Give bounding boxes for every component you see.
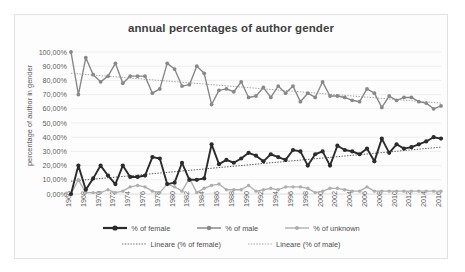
- x-tick-label: 1974: [123, 191, 132, 207]
- data-point: [195, 64, 199, 68]
- data-point: [313, 96, 317, 100]
- y-tick-label: 60,00%: [43, 104, 68, 113]
- data-point: [299, 185, 302, 188]
- legend-item[interactable]: % of unknown: [284, 224, 359, 233]
- data-point: [417, 189, 420, 192]
- legend-item[interactable]: % of female: [102, 224, 170, 233]
- legend-item[interactable]: Lineare (% of female): [121, 240, 221, 249]
- data-point: [254, 189, 257, 192]
- data-point: [210, 184, 213, 187]
- data-point: [121, 81, 125, 85]
- data-point: [136, 74, 140, 78]
- data-point: [291, 148, 295, 152]
- data-point: [439, 137, 443, 141]
- data-point: [380, 137, 384, 141]
- x-tick-label: 1992: [256, 191, 265, 207]
- data-point: [328, 164, 332, 168]
- data-point: [180, 84, 184, 88]
- data-point: [77, 93, 81, 97]
- data-point: [247, 184, 250, 187]
- data-point: [395, 189, 398, 192]
- x-tick-label: 1990: [242, 191, 251, 207]
- data-point: [313, 152, 317, 156]
- data-point: [203, 187, 206, 190]
- legend-swatch-icon: [102, 224, 128, 232]
- data-point: [365, 146, 369, 150]
- data-point: [373, 91, 377, 95]
- data-point: [350, 98, 354, 102]
- data-point: [217, 162, 221, 166]
- data-point: [372, 159, 376, 163]
- data-point: [136, 175, 140, 179]
- data-point: [151, 189, 154, 192]
- data-point: [328, 94, 332, 98]
- data-point: [225, 188, 228, 191]
- data-point: [188, 83, 192, 87]
- data-point: [239, 156, 243, 160]
- data-point: [76, 164, 80, 168]
- data-point: [247, 151, 251, 155]
- data-point: [439, 104, 443, 108]
- data-point: [402, 146, 406, 150]
- trendline: [71, 73, 441, 103]
- y-tick-label: 100,00%: [39, 48, 68, 57]
- data-point: [173, 181, 177, 185]
- data-point: [247, 96, 251, 100]
- x-tick-label: 2014: [419, 191, 428, 207]
- data-point: [261, 159, 265, 163]
- legend-item[interactable]: Lineare (% of male): [247, 240, 341, 249]
- data-point: [99, 80, 103, 84]
- data-point: [232, 161, 236, 165]
- data-point: [343, 188, 346, 191]
- data-point: [128, 74, 132, 78]
- data-point: [92, 191, 95, 194]
- data-point: [84, 56, 88, 60]
- data-point: [165, 182, 169, 186]
- y-tick-label: 70,00%: [43, 90, 68, 99]
- data-point: [417, 142, 421, 146]
- data-point: [129, 185, 132, 188]
- data-point: [373, 189, 376, 192]
- data-point: [306, 164, 310, 168]
- data-point: [128, 175, 132, 179]
- data-point: [69, 50, 73, 54]
- data-point: [114, 61, 118, 65]
- data-point: [202, 176, 206, 180]
- y-axis-tick-labels: 100,00%90,00%80,00%70,00%60,00%50,00%40,…: [39, 48, 68, 199]
- data-point: [306, 91, 310, 95]
- data-point: [99, 164, 103, 168]
- data-point: [425, 189, 428, 192]
- data-point: [276, 84, 280, 88]
- data-point: [106, 173, 110, 177]
- x-tick-label: 2010: [390, 191, 399, 207]
- data-point: [91, 73, 95, 77]
- x-tick-label: 2016: [434, 191, 443, 207]
- data-point: [106, 74, 110, 78]
- y-tick-label: 90,00%: [43, 62, 68, 71]
- data-point: [113, 182, 117, 186]
- x-tick-label: 1982: [182, 191, 191, 207]
- data-point: [343, 148, 347, 152]
- chart-legend: % of female% of male% of unknown Lineare…: [15, 220, 447, 252]
- data-point: [254, 94, 258, 98]
- legend-swatch-icon: [247, 240, 273, 248]
- data-point: [432, 189, 435, 192]
- data-point: [173, 185, 176, 188]
- data-point: [121, 164, 125, 168]
- data-point: [402, 96, 406, 100]
- x-tick-label: 1994: [271, 191, 280, 207]
- data-point: [291, 185, 294, 188]
- data-point: [410, 96, 414, 100]
- data-point: [432, 107, 436, 111]
- legend-item[interactable]: % of male: [196, 224, 258, 233]
- data-point: [143, 185, 146, 188]
- data-point: [84, 188, 88, 192]
- data-point: [380, 189, 383, 192]
- data-point: [306, 187, 309, 190]
- data-point: [136, 184, 139, 187]
- legend-label: % of female: [131, 224, 170, 233]
- x-tick-label: 2012: [404, 191, 413, 207]
- data-point: [150, 155, 154, 159]
- data-point: [195, 178, 199, 182]
- data-point: [365, 185, 368, 188]
